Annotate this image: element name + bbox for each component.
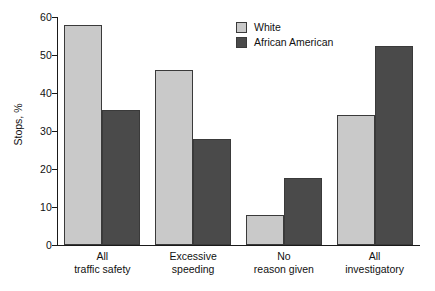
y-tick-label: 30 <box>18 126 52 137</box>
legend-swatch-icon <box>236 37 247 48</box>
y-tick-label-wrap: 50 <box>0 50 52 61</box>
bar <box>284 178 322 245</box>
y-tick-label-wrap: 60 <box>0 12 52 23</box>
bar <box>193 139 231 245</box>
x-axis-category-line: All <box>315 250 435 263</box>
y-tick-label-wrap: 30 <box>0 126 52 137</box>
y-tick-label: 50 <box>18 50 52 61</box>
y-tick-label: 20 <box>18 164 52 175</box>
y-tick-label-wrap: 0 <box>0 240 52 251</box>
y-tick-label: 0 <box>18 240 52 251</box>
bar <box>155 70 193 245</box>
y-tick-label-wrap: 10 <box>0 202 52 213</box>
bar <box>375 46 413 246</box>
legend-item: White <box>236 20 333 35</box>
y-tick-label: 10 <box>18 202 52 213</box>
bar <box>246 215 284 245</box>
x-axis-category-label: Allinvestigatory <box>315 250 435 275</box>
legend-item: African American <box>236 35 333 50</box>
bar <box>102 110 140 245</box>
x-axis-line <box>57 245 420 246</box>
y-axis-line <box>57 17 58 246</box>
y-tick-label: 40 <box>18 88 52 99</box>
y-tick-label-wrap: 40 <box>0 88 52 99</box>
legend: WhiteAfrican American <box>236 20 333 50</box>
y-tick-label: 60 <box>18 12 52 23</box>
bar <box>337 115 375 245</box>
legend-label: African American <box>254 37 333 48</box>
x-axis-category-line: investigatory <box>315 263 435 276</box>
legend-label: White <box>254 22 281 33</box>
y-tick-label-wrap: 20 <box>0 164 52 175</box>
bar <box>64 25 102 245</box>
legend-swatch-icon <box>236 22 247 33</box>
bar-chart: Stops, % 0102030405060 Alltraffic safety… <box>0 0 435 291</box>
